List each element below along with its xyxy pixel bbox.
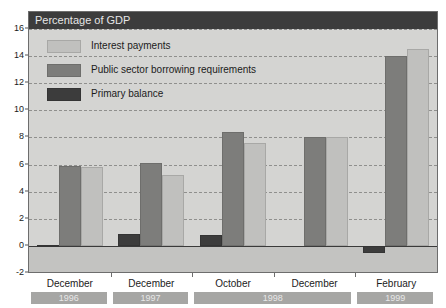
gridline <box>29 110 437 111</box>
year-band: 1998 <box>194 292 351 304</box>
bar <box>37 245 59 247</box>
legend-label: Interest payments <box>91 39 170 53</box>
bar <box>200 235 222 246</box>
bar <box>59 166 81 246</box>
year-band: 1999 <box>357 292 433 304</box>
y-axis-tick-label: 10 <box>14 105 24 114</box>
bar <box>162 175 184 245</box>
bar <box>222 132 244 246</box>
y-axis: 1614121086420-2 <box>0 14 28 272</box>
plot-area: Percentage of GDP Interest paymentsPubli… <box>28 11 438 273</box>
bar <box>81 167 103 246</box>
bar <box>363 246 385 253</box>
x-axis-labels: DecemberDecemberOctoberDecemberFebruary <box>28 277 438 291</box>
plot-body: Interest paymentsPublic sector borrowing… <box>29 29 437 272</box>
legend-swatch <box>47 88 81 101</box>
x-axis-label: October <box>215 277 251 290</box>
bar <box>304 137 326 245</box>
year-band-label: 1997 <box>113 292 189 304</box>
year-band-label: 1999 <box>357 292 433 304</box>
bar <box>244 143 266 246</box>
legend-swatch <box>47 40 81 53</box>
y-axis-tick-label: 16 <box>14 24 24 33</box>
y-axis-tick-label: 6 <box>19 159 24 168</box>
legend-item[interactable]: Public sector borrowing requirements <box>47 62 347 86</box>
x-axis-label: December <box>47 277 93 290</box>
y-axis-tick-label: 12 <box>14 78 24 87</box>
bar <box>118 234 140 246</box>
y-axis-tick-label: 0 <box>19 240 24 249</box>
chart-legend: Interest paymentsPublic sector borrowing… <box>47 38 347 110</box>
bar <box>326 137 348 245</box>
year-band-label: 1998 <box>194 292 351 304</box>
chart-figure: 1614121086420-2 Percentage of GDP Intere… <box>0 0 446 308</box>
x-axis-label: February <box>376 277 416 290</box>
legend-item[interactable]: Primary balance <box>47 86 347 110</box>
legend-item[interactable]: Interest payments <box>47 38 347 62</box>
legend-swatch <box>47 64 81 77</box>
legend-label: Primary balance <box>91 87 163 101</box>
chart-title-bar: Percentage of GDP <box>29 12 437 29</box>
bar <box>140 163 162 246</box>
year-band: 1996 <box>31 292 107 304</box>
year-band-label: 1996 <box>31 292 107 304</box>
y-axis-tick-label: -2 <box>16 268 24 277</box>
x-axis-label: December <box>292 277 338 290</box>
gridline <box>29 29 437 30</box>
y-axis-tick-label: 2 <box>19 213 24 222</box>
y-axis-tick-label: 8 <box>19 132 24 141</box>
bar <box>407 49 429 246</box>
x-axis-label: December <box>128 277 174 290</box>
chart-title: Percentage of GDP <box>35 14 130 27</box>
year-band: 1997 <box>113 292 189 304</box>
y-axis-tick-label: 14 <box>14 51 24 60</box>
bar <box>385 56 407 246</box>
legend-label: Public sector borrowing requirements <box>91 63 256 77</box>
year-band-strip: 1996199719981999 <box>28 292 438 304</box>
y-axis-tick-label: 4 <box>19 186 24 195</box>
